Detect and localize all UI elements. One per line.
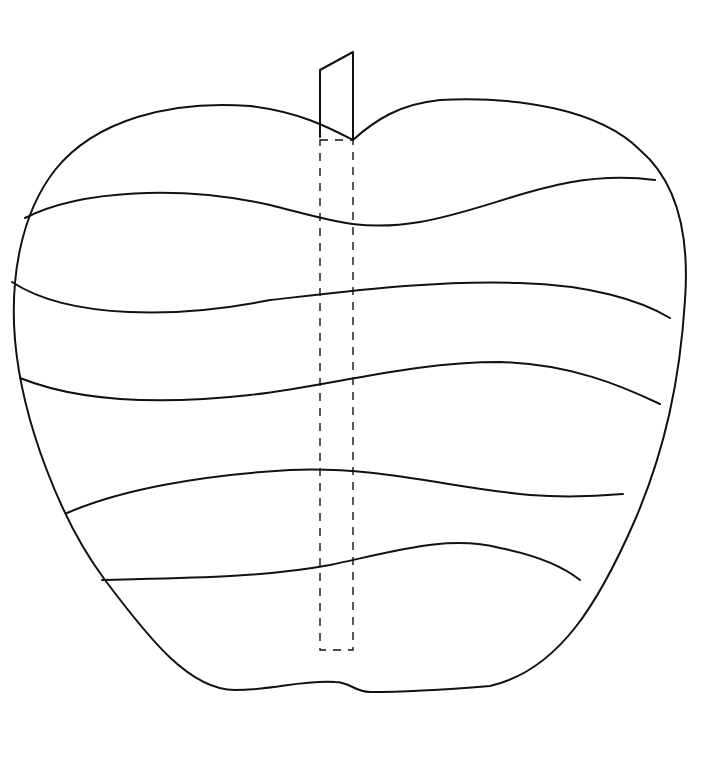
band-line-5 — [102, 543, 580, 580]
band-line-2 — [12, 282, 670, 318]
apple-outline — [14, 99, 686, 692]
band-line-4 — [67, 470, 623, 513]
apple-drawing — [0, 0, 703, 761]
band-line-3 — [20, 362, 660, 404]
apple-svg — [0, 0, 703, 761]
core-guide-dashed — [320, 140, 353, 650]
band-line-1 — [25, 178, 655, 226]
